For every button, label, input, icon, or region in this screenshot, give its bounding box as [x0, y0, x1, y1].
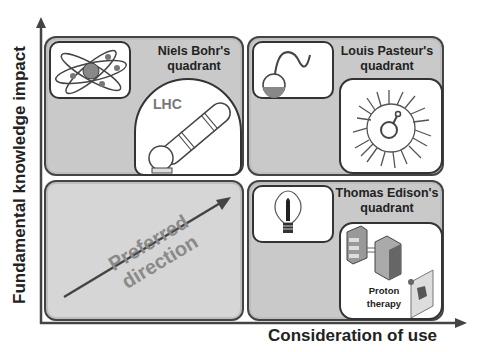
quadrant-preferred-direction: Preferred direction — [44, 180, 244, 321]
quadrant-title: Thomas Edison's quadrant — [329, 186, 445, 216]
quadrant-niels-bohr: Niels Bohr's quadrant LHC — [44, 36, 244, 176]
y-axis-label: Fundamental knowledge impact — [10, 25, 30, 325]
bacteria-icon — [339, 78, 443, 174]
quadrant-thomas-edison: Thomas Edison's quadrant Proton therapy — [247, 180, 444, 321]
light-bulb-icon — [252, 185, 334, 243]
swan-neck-flask-icon — [252, 41, 334, 99]
quadrant-title: Niels Bohr's quadrant — [146, 44, 242, 74]
quadrant-louis-pasteur: Louis Pasteur's quadrant — [247, 36, 444, 176]
lhc-icon: LHC — [134, 78, 242, 176]
atom-icon — [49, 41, 131, 99]
proton-therapy-label: Proton therapy — [359, 284, 409, 310]
x-axis-label: Consideration of use — [268, 326, 437, 346]
quadrant-title: Louis Pasteur's quadrant — [331, 44, 443, 74]
proton-therapy-icon: Proton therapy — [339, 222, 443, 320]
